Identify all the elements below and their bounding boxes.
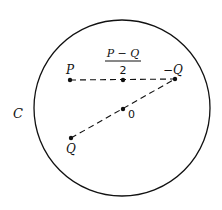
point-p bbox=[68, 78, 72, 82]
point-q bbox=[69, 136, 73, 140]
diagram-canvas: C P P − Q 2 −Q 0 Q bbox=[0, 0, 222, 210]
label-p: P bbox=[65, 63, 75, 77]
label-neg-q: −Q bbox=[163, 63, 183, 77]
point-neg-q bbox=[173, 77, 177, 81]
label-midpoint-denominator: 2 bbox=[120, 64, 127, 77]
label-q: Q bbox=[66, 142, 76, 156]
label-midpoint-numerator: P − Q bbox=[106, 47, 140, 60]
label-c: C bbox=[13, 106, 23, 121]
point-origin bbox=[121, 107, 125, 111]
label-origin: 0 bbox=[128, 108, 135, 121]
point-midpoint bbox=[121, 78, 125, 82]
